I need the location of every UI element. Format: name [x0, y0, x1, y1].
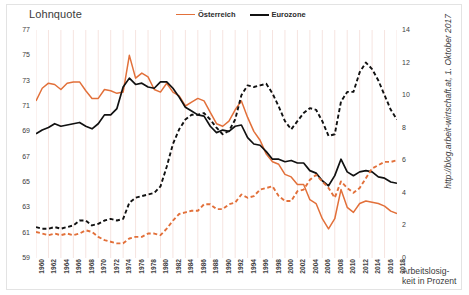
x-axis-tick: 1992 — [238, 259, 245, 274]
x-axis-tick: 2016 — [388, 259, 395, 274]
x-axis-tick: 1990 — [226, 259, 233, 274]
chart-canvas — [36, 30, 397, 258]
x-axis-tick: 1962 — [51, 259, 58, 274]
y-axis-left-tick: 77 — [0, 26, 30, 33]
x-axis: 1960196219641966196819701972197419761978… — [36, 258, 397, 290]
x-axis-tick: 1964 — [64, 259, 71, 274]
plot-area — [36, 30, 397, 258]
y-axis-right-tick: 14 — [402, 26, 410, 33]
x-axis-tick: 2014 — [375, 259, 382, 274]
y-axis-left-tick: 63 — [0, 203, 30, 210]
legend-item-osterreich: Österreich — [176, 10, 236, 19]
y-axis-right-tick: 10 — [402, 91, 410, 98]
x-axis-tick: 1970 — [101, 259, 108, 274]
source-note: http://blog.arbeit-wirtschaft.at, 1. Okt… — [432, 14, 448, 244]
x-axis-tick: 1974 — [126, 259, 133, 274]
x-axis-tick: 1978 — [151, 259, 158, 274]
y-axis-right-tick: 6 — [402, 156, 406, 163]
x-axis-tick: 2004 — [313, 259, 320, 274]
y-axis-left-tick: 75 — [0, 51, 30, 58]
y-axis-left-tick: 59 — [0, 254, 30, 261]
legend-label-osterreich: Österreich — [198, 10, 236, 19]
legend-item-eurozone: Eurozone — [250, 10, 306, 19]
x-axis-tick: 1980 — [163, 259, 170, 274]
x-axis-tick: 1984 — [188, 259, 195, 274]
series-line-3 — [36, 63, 397, 229]
legend-swatch-eurozone-icon — [250, 14, 269, 16]
x-axis-tick: 1986 — [201, 259, 208, 274]
x-axis-tick: 1976 — [139, 259, 146, 274]
gridlines — [36, 30, 397, 258]
y-axis-right-tick: 12 — [402, 59, 410, 66]
y-axis-right-tick: 2 — [402, 221, 406, 228]
x-axis-tick: 2002 — [300, 259, 307, 274]
y-axis-left-tick: 61 — [0, 229, 30, 236]
series-line-1 — [36, 78, 397, 186]
x-axis-tick: 1968 — [89, 259, 96, 274]
y-axis-left-tick: 69 — [0, 127, 30, 134]
y-axis-left: 77757371696765636159 — [0, 30, 34, 258]
y-axis-right: 14121086420 — [398, 30, 428, 258]
x-axis-tick: 1988 — [213, 259, 220, 274]
x-axis-tick: 1972 — [114, 259, 121, 274]
x-axis-tick: 2012 — [363, 259, 370, 274]
y-axis-left-tick: 67 — [0, 153, 30, 160]
x-axis-tick: 1960 — [39, 259, 46, 274]
x-axis-tick: 1998 — [276, 259, 283, 274]
y-axis-left-tick: 73 — [0, 77, 30, 84]
x-axis-tick: 1996 — [263, 259, 270, 274]
x-axis-tick: 1994 — [251, 259, 258, 274]
y-axis-right-tick: 4 — [402, 189, 406, 196]
page-title: Lohnquote — [29, 8, 82, 20]
x-axis-tick: 2000 — [288, 259, 295, 274]
x-axis-tick: 1982 — [176, 259, 183, 274]
legend-label-eurozone: Eurozone — [272, 10, 306, 19]
chart-legend: Österreich Eurozone — [176, 10, 306, 19]
x-axis-tick: 2006 — [325, 259, 332, 274]
series-lines — [36, 55, 397, 243]
x-axis-tick: 2010 — [350, 259, 357, 274]
y-axis-left-tick: 71 — [0, 102, 30, 109]
y-axis-left-tick: 65 — [0, 178, 30, 185]
y-axis-right-tick: 8 — [402, 124, 406, 131]
source-note-text: http://blog.arbeit-wirtschaft.at, 1. Okt… — [443, 14, 453, 189]
series-line-2 — [36, 160, 397, 243]
x-axis-tick: 1966 — [76, 259, 83, 274]
x-axis-tick: 2008 — [338, 259, 345, 274]
series-line-0 — [36, 55, 397, 229]
legend-swatch-osterreich-icon — [176, 14, 195, 15]
y2-caption-line2: keit in Prozent — [402, 276, 466, 286]
y2-caption-line1: Arbeitslosig- — [402, 266, 466, 276]
chart-screenshot: Lohnquote Österreich Eurozone 7775737169… — [0, 0, 469, 295]
y-axis-right-caption: Arbeitslosig- keit in Prozent — [402, 266, 466, 286]
